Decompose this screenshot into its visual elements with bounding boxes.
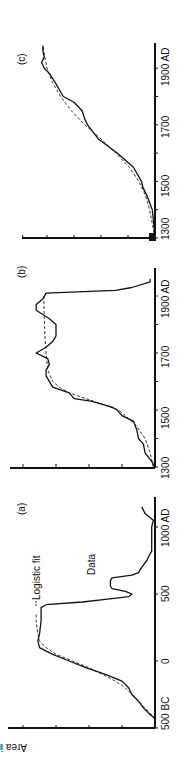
panel-a-label: (a) <box>16 503 27 515</box>
panel-b-logistic-fit-line <box>44 296 154 467</box>
panel-a-data-line <box>38 507 155 719</box>
panel-a-tick-1000ad: 1000 AD <box>160 509 171 547</box>
panel-b-tick-1700: 1700 <box>160 345 171 368</box>
panel-a-tick-0: 0 <box>160 658 171 664</box>
panel-a-tick-500bc: 500 BC <box>160 697 171 730</box>
panel-c: 1300 1500 1700 1900 AD (c) <box>16 43 171 241</box>
panel-b-data-line <box>36 279 155 467</box>
panel-b-tick-1300: 1300 <box>160 456 171 479</box>
panel-c-tick-1900: 1900 AD <box>160 48 171 86</box>
panel-c-tick-1700: 1700 <box>160 115 171 138</box>
panel-a-logistic-fit-line <box>36 614 155 719</box>
y-axis-label: Area in sq. miles × 10² <box>0 742 27 753</box>
panel-c-data-line <box>42 46 155 238</box>
panel-c-logistic-fit-line <box>43 46 155 238</box>
panel-a-tick-500: 500 <box>160 585 171 602</box>
panel-c-label: (c) <box>16 53 27 65</box>
data-annotation: Data <box>86 553 97 575</box>
panel-c-tick-1500: 1500 <box>160 174 171 197</box>
panel-a: 500 BC 0 500 1000 AD (a) Logistic fit Da… <box>8 497 171 730</box>
panel-c-tick-1300: 1300 <box>160 217 171 240</box>
panel-b-label: (b) <box>16 266 27 278</box>
panel-b-tick-1900: 1900 AD <box>160 280 171 318</box>
panel-b: 1300 1500 1700 1900 AD (b) <box>10 266 171 479</box>
panel-b-tick-1500: 1500 <box>160 406 171 429</box>
figure: 1300 1500 1700 1900 AD (c) 1300 1500 170… <box>0 0 189 782</box>
logistic-fit-annotation: Logistic fit <box>31 555 42 600</box>
